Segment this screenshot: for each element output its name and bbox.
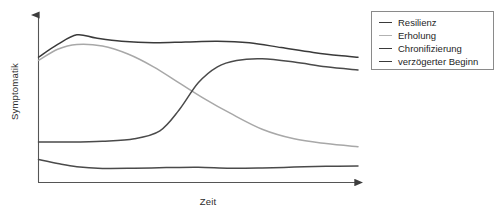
legend-swatch-resilienz <box>379 22 392 23</box>
series-line-erholung <box>39 44 359 147</box>
y-axis-title: Symptomatik <box>9 57 20 127</box>
legend-swatch-erholung <box>379 35 392 36</box>
legend-item-resilienz: Resilienz <box>377 16 493 29</box>
legend-label-chronifizierung: Chronifizierung <box>398 42 462 55</box>
series-line-chronifizierung <box>39 35 359 58</box>
legend-item-verzoegerter-beginn: verzögerter Beginn <box>377 55 493 68</box>
x-axis-title: Zeit <box>178 196 238 207</box>
legend-label-resilienz: Resilienz <box>398 16 437 29</box>
series-line-resilienz <box>39 160 359 169</box>
chart-legend: Resilienz Erholung Chronifizierung verzö… <box>371 11 494 70</box>
legend-swatch-chronifizierung <box>379 48 392 49</box>
legend-item-chronifizierung: Chronifizierung <box>377 42 493 55</box>
legend-item-erholung: Erholung <box>377 29 493 42</box>
legend-label-verzoegerter-beginn: verzögerter Beginn <box>398 55 478 68</box>
legend-swatch-verzoegerter-beginn <box>379 61 392 62</box>
chart-figure: Symptomatik Zeit Resilienz Erholung Chro… <box>0 0 499 219</box>
legend-label-erholung: Erholung <box>398 29 436 42</box>
series-line-verzoegerter-beginn <box>39 59 359 142</box>
